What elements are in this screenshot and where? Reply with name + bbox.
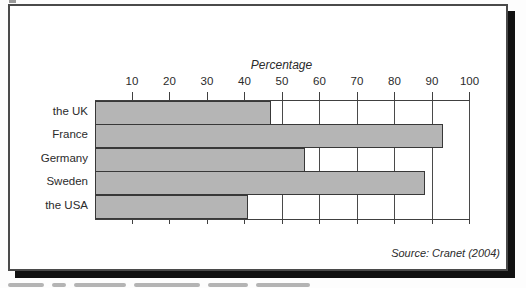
x-tick-label: 10 — [126, 75, 139, 87]
x-tick-mark-top — [207, 92, 208, 100]
caption-remnant-fragment — [8, 283, 44, 287]
x-tick-mark-bottom — [207, 219, 208, 224]
x-tick-mark-bottom — [282, 219, 283, 224]
bar-the-uk — [95, 101, 271, 125]
bar-france — [95, 124, 444, 148]
x-tick-label: 50 — [276, 75, 289, 87]
x-tick-label: 30 — [201, 75, 214, 87]
x-tick-mark-bottom — [357, 219, 358, 224]
caption-remnant-fragment — [134, 283, 200, 287]
x-tick-mark-top — [469, 92, 470, 100]
gridline — [469, 101, 470, 219]
gridline — [357, 101, 358, 219]
x-tick-mark-top — [282, 92, 283, 100]
category-label-sweden: Sweden — [8, 175, 88, 187]
x-tick-label: 90 — [426, 75, 439, 87]
gridline — [394, 101, 395, 219]
x-tick-mark-bottom — [132, 219, 133, 224]
x-tick-mark-top — [357, 92, 358, 100]
gridline — [432, 101, 433, 219]
gridline — [319, 101, 320, 219]
x-tick-mark-top — [244, 92, 245, 100]
x-tick-label: 40 — [238, 75, 251, 87]
x-tick-mark-bottom — [169, 219, 170, 224]
bar-the-usa — [95, 195, 249, 219]
plot-area — [95, 100, 470, 220]
x-tick-mark-top — [394, 92, 395, 100]
category-label-france: France — [8, 128, 88, 140]
figure-panel: Percentage Source: Cranet (2004) 1020304… — [0, 0, 526, 288]
x-tick-mark-top — [319, 92, 320, 100]
category-label-germany: Germany — [8, 152, 88, 164]
category-label-the-uk: the UK — [8, 105, 88, 117]
x-tick-mark-bottom — [469, 219, 470, 224]
x-tick-mark-bottom — [319, 219, 320, 224]
x-tick-mark-top — [432, 92, 433, 100]
x-tick-label: 80 — [388, 75, 401, 87]
x-tick-label: 100 — [460, 75, 479, 87]
category-label-the-usa: the USA — [8, 199, 88, 211]
x-tick-mark-bottom — [394, 219, 395, 224]
chart-title: Percentage — [94, 58, 469, 72]
caption-remnant-fragment — [208, 283, 248, 287]
cropped-caption-remnant — [8, 282, 328, 288]
caption-remnant-fragment — [74, 283, 126, 287]
caption-remnant-fragment — [256, 283, 310, 287]
x-tick-label: 60 — [313, 75, 326, 87]
x-tick-label: 20 — [163, 75, 176, 87]
x-tick-mark-top — [169, 92, 170, 100]
x-tick-mark-bottom — [244, 219, 245, 224]
x-tick-label: 70 — [351, 75, 364, 87]
caption-remnant-fragment — [52, 283, 66, 287]
x-tick-mark-bottom — [432, 219, 433, 224]
bar-germany — [95, 148, 305, 172]
bar-sweden — [95, 171, 425, 195]
x-tick-mark-top — [132, 92, 133, 100]
cropped-content-speck — [9, 0, 16, 3]
source-note: Source: Cranet (2004) — [391, 247, 500, 259]
